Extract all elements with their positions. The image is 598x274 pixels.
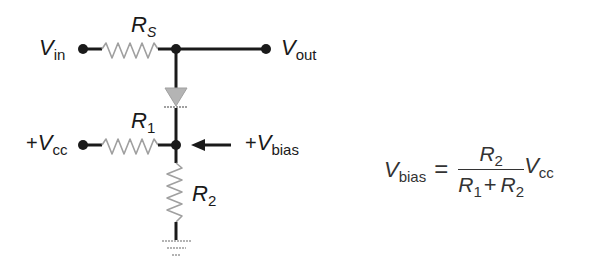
equation-lhs: Vbias bbox=[384, 157, 426, 183]
arrow-head-icon bbox=[191, 139, 205, 151]
ground-icon bbox=[162, 241, 191, 255]
middle-rail bbox=[78, 139, 181, 154]
label-vout: Vout bbox=[281, 37, 317, 59]
fraction-denominator: R1+R2 bbox=[458, 170, 524, 198]
r2-branch bbox=[167, 145, 182, 240]
bias-equation: Vbias = R2 R1+R2 Vcc bbox=[384, 140, 554, 200]
vout-terminal bbox=[261, 44, 271, 54]
equals-sign: = bbox=[434, 155, 448, 183]
diode-branch bbox=[164, 49, 188, 145]
bias-arrow bbox=[191, 139, 231, 151]
resistor-r2 bbox=[167, 163, 182, 222]
resistor-rs bbox=[102, 43, 158, 58]
label-r1: R1 bbox=[131, 110, 155, 132]
fraction: R2 R1+R2 bbox=[458, 142, 524, 198]
resistor-r1 bbox=[102, 139, 158, 154]
label-vcc: +Vcc bbox=[26, 132, 67, 154]
diode-icon bbox=[165, 88, 187, 106]
label-r2: R2 bbox=[192, 183, 216, 205]
label-rs: RS bbox=[131, 14, 156, 36]
fraction-numerator: R2 bbox=[479, 142, 503, 169]
equation-multiplier: Vcc bbox=[524, 153, 554, 179]
label-vin: Vin bbox=[39, 37, 65, 59]
label-vbias: +Vbias bbox=[245, 132, 299, 154]
